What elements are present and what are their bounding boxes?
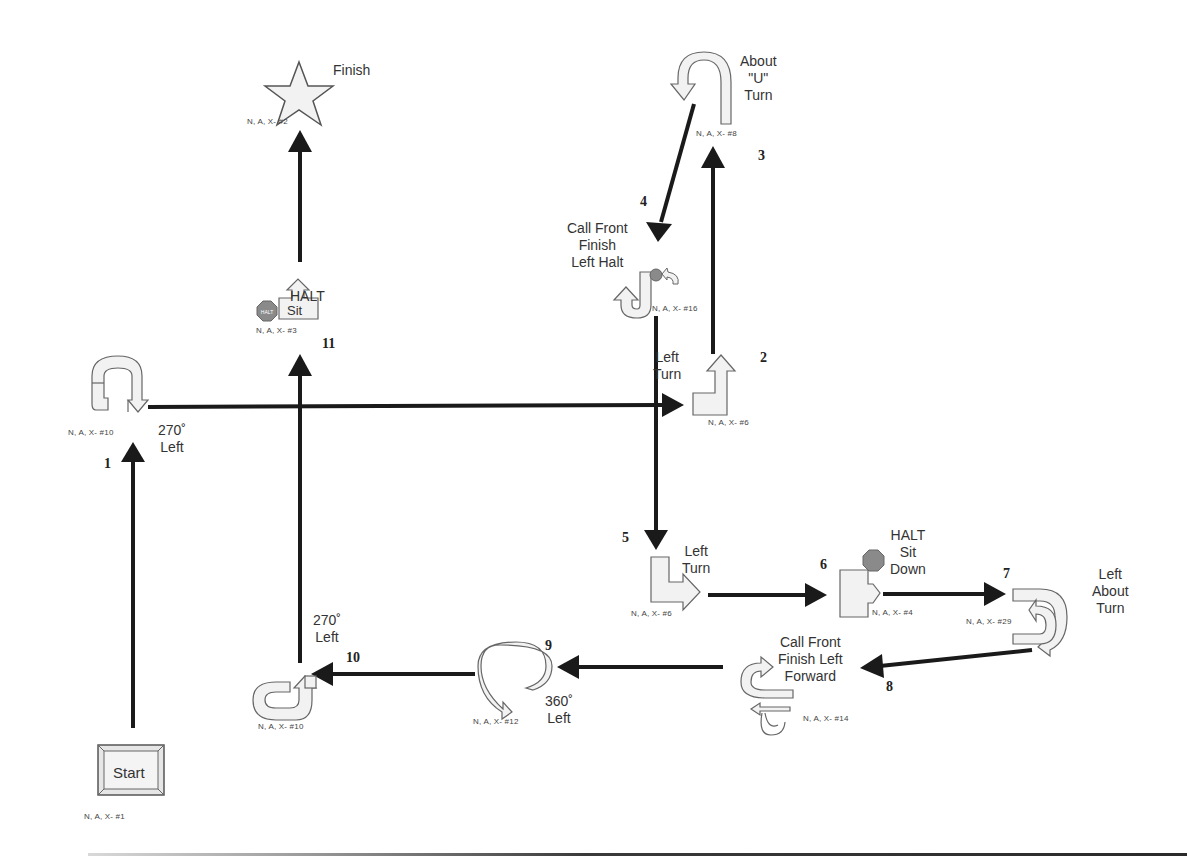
path-number: 8 [886, 679, 893, 695]
left-turn-sign-icon [693, 355, 735, 415]
halt-sit-down-sign-icon [840, 550, 884, 617]
path-number: 7 [1003, 566, 1010, 582]
path-number: 1 [104, 456, 111, 472]
station-code: N, A, X- #1 [84, 812, 125, 821]
station-code: N, A, X- #6 [631, 609, 672, 618]
station-label: 270˚ Left [313, 612, 341, 646]
station-code: N, A, X- #6 [708, 418, 749, 427]
station-code: N, A, X- #14 [803, 714, 849, 723]
station-code: N, A, X- #29 [966, 617, 1012, 626]
about-u-turn-icon [671, 52, 731, 124]
path-number: 3 [758, 148, 765, 164]
station-label: Call Front Finish Left Halt [567, 220, 628, 271]
station-code: N, A, X- #2 [247, 117, 288, 126]
path-number: 6 [820, 557, 827, 573]
270-left-turn-icon [253, 676, 316, 720]
sign-text: Sit [287, 302, 302, 319]
station-code: N, A, X- #10 [258, 722, 304, 731]
station-label: About "U" Turn [740, 53, 777, 104]
path-number: 5 [622, 530, 629, 546]
station-label: Left Turn [653, 349, 681, 383]
station-label: HALT Sit Down [890, 527, 926, 578]
station-code: N, A, X- #4 [872, 608, 913, 617]
path-number: 9 [545, 638, 552, 654]
path-number: 2 [760, 350, 767, 366]
station-code: N, A, X- #16 [652, 304, 698, 313]
station-code: N, A, X- #3 [256, 326, 297, 335]
finish-label: Finish [333, 62, 370, 79]
course-path-arrows [121, 104, 1032, 728]
station-code: N, A, X- #8 [696, 129, 737, 138]
finish-star-icon [265, 62, 333, 125]
start-label: Start [113, 764, 145, 781]
360-left-turn-icon [478, 642, 552, 719]
station-code: N, A, X- #12 [473, 717, 519, 726]
station-code: N, A, X- #10 [68, 428, 114, 437]
270-left-turn-icon [92, 356, 148, 412]
station-label: 270˚ Left [158, 422, 186, 456]
svg-text:HALT: HALT [261, 309, 273, 315]
path-number: 4 [640, 194, 647, 210]
station-label: 360˚ Left [545, 693, 573, 727]
rally-course-map: HALT S [0, 0, 1187, 861]
path-number: 10 [346, 650, 360, 666]
station-label: Left Turn [682, 543, 710, 577]
left-about-turn-icon [1013, 589, 1067, 656]
bottom-divider [88, 853, 1187, 856]
path-number: 11 [322, 336, 335, 352]
station-label: Left About Turn [1092, 566, 1129, 617]
station-label: Call Front Finish Left Forward [778, 634, 843, 685]
